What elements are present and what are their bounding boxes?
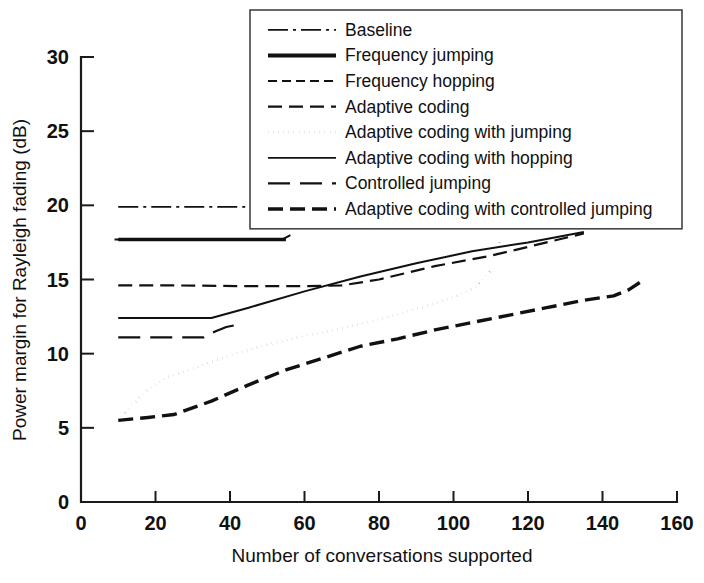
legend-label: Adaptive coding <box>345 97 470 117</box>
x-tick-labels: 020406080100120140160 <box>75 512 693 534</box>
x-tick-label: 160 <box>660 512 693 534</box>
legend-label: Adaptive coding with controlled jumping <box>345 199 652 219</box>
x-tick-label: 40 <box>219 512 241 534</box>
legend: BaselineFrequency jumpingFrequency hoppi… <box>250 10 682 229</box>
legend-box <box>250 10 682 229</box>
series-line <box>118 282 640 420</box>
y-tick-label: 0 <box>58 491 69 513</box>
y-tick-label: 15 <box>47 269 69 291</box>
y-tick-label: 20 <box>47 194 69 216</box>
y-tick-label: 5 <box>58 417 69 439</box>
x-tick-label: 20 <box>144 512 166 534</box>
legend-label: Adaptive coding with jumping <box>345 122 572 142</box>
legend-label: Frequency hopping <box>345 71 495 91</box>
x-tick-label: 60 <box>293 512 315 534</box>
x-tick-label: 120 <box>511 512 544 534</box>
y-tick-label: 10 <box>47 343 69 365</box>
series-line <box>118 232 584 318</box>
legend-label: Adaptive coding with hopping <box>345 148 573 168</box>
x-tick-label: 0 <box>75 512 86 534</box>
legend-label: Frequency jumping <box>345 45 494 65</box>
x-tick-label: 140 <box>586 512 619 534</box>
x-tick-label: 80 <box>368 512 390 534</box>
series-line <box>118 325 233 337</box>
y-axis-label: Power margin for Rayleigh fading (dB) <box>9 119 30 441</box>
y-tick-label: 25 <box>47 120 69 142</box>
y-tick-labels: 051015202530 <box>47 46 69 513</box>
x-axis-label: Number of conversations supported <box>232 545 533 566</box>
series-line <box>118 213 504 421</box>
y-tick-label: 30 <box>47 46 69 68</box>
chart-container: 020406080100120140160 051015202530 Numbe… <box>0 0 704 583</box>
legend-label: Baseline <box>345 20 412 40</box>
line-chart: 020406080100120140160 051015202530 Numbe… <box>0 0 704 583</box>
legend-label: Controlled jumping <box>345 173 491 193</box>
data-series <box>115 207 640 421</box>
x-tick-label: 100 <box>437 512 470 534</box>
